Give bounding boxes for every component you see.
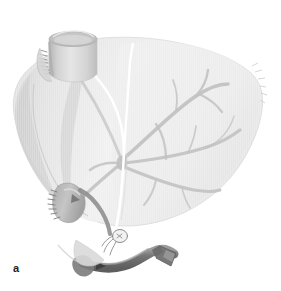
ligature-tail-3	[110, 242, 116, 255]
inferior-vena-cava-stump	[49, 31, 97, 82]
cava-lumen-inner	[54, 35, 92, 45]
liver-anatomy-illustration	[0, 0, 281, 291]
figure-panel: a	[0, 0, 281, 291]
panel-label: a	[13, 263, 19, 274]
